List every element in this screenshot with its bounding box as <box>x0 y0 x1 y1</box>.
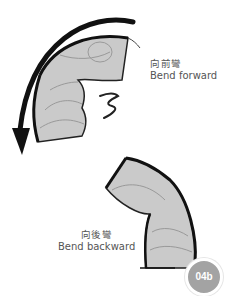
figure-number-badge: 04b <box>185 258 223 296</box>
bend-backward-label-zh: 向後彎 <box>58 229 135 241</box>
bend-forward-label-zh: 向前彎 <box>150 58 217 70</box>
bend-forward-label-en: Bend forward <box>150 70 217 82</box>
bend-backward-label: 向後彎 Bend backward <box>58 229 135 253</box>
bend-forward-label: 向前彎 Bend forward <box>150 58 217 82</box>
bend-backward-label-en: Bend backward <box>58 241 135 253</box>
figure-canvas: 向前彎 Bend forward 向後彎 Bend backward 04b <box>0 0 232 296</box>
